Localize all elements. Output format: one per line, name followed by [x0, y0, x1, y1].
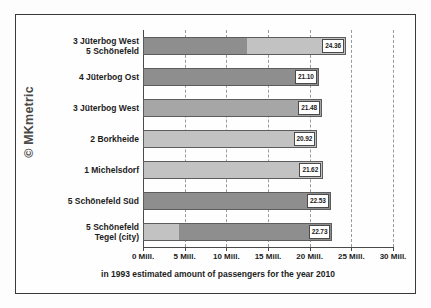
gridline — [351, 30, 352, 247]
copyright-text: © MKmetric — [22, 86, 36, 158]
bar-value-label: 21.48 — [298, 101, 320, 115]
bar-value-label: 24.36 — [322, 39, 344, 53]
x-axis-tick-label: 20 Mill. — [288, 252, 332, 261]
x-axis-tick — [393, 247, 394, 251]
category-label: 2 Borkheide — [43, 134, 143, 144]
bar-segment — [144, 162, 322, 178]
bar-segment — [144, 131, 316, 147]
bar-segment — [144, 224, 179, 240]
category-label: 1 Michelsdorf — [43, 165, 143, 175]
category-label-line: 5 Schönefeld — [43, 222, 139, 232]
x-axis-tick — [226, 247, 227, 251]
bar[interactable]: 21.62 — [143, 161, 323, 179]
copyright-watermark: © MKmetric — [20, 52, 38, 192]
plot-area: 24.3621.1021.4820.9221.6222.5322.73 — [143, 30, 393, 247]
category-label-line: 5 Schönefeld — [43, 46, 139, 56]
bar-segment — [144, 100, 321, 116]
x-axis-tick-label: 5 Mill. — [163, 252, 207, 261]
category-label-line: Tegel (city) — [43, 232, 139, 242]
bar[interactable]: 24.36 — [143, 37, 346, 55]
category-label-line: 3 Jüterbog West — [43, 103, 139, 113]
category-label-line: 3 Jüterbog West — [43, 36, 139, 46]
bar-row: 21.10 — [143, 68, 319, 86]
bar-segment — [144, 69, 318, 85]
bar-segment — [144, 193, 330, 209]
bar-value-label: 21.10 — [295, 70, 317, 84]
bar-row: 21.48 — [143, 99, 322, 117]
x-axis-tick-label: 15 Mill. — [246, 252, 290, 261]
bar-segment — [144, 38, 247, 54]
bar-value-label: 22.73 — [309, 225, 331, 239]
x-axis-tick — [268, 247, 269, 251]
x-axis-tick — [310, 247, 311, 251]
category-label: 5 SchönefeldTegel (city) — [43, 222, 143, 242]
bar-value-label: 21.62 — [299, 163, 321, 177]
x-axis-tick — [143, 247, 144, 251]
x-axis-tick — [351, 247, 352, 251]
bar[interactable]: 22.53 — [143, 192, 331, 210]
category-label: 5 Schönefeld Süd — [43, 196, 143, 206]
bar[interactable]: 22.73 — [143, 223, 332, 241]
bar-row: 24.36 — [143, 37, 346, 55]
category-label: 3 Jüterbog West — [43, 103, 143, 113]
x-axis-title: in 1993 estimated amount of passengers f… — [38, 269, 398, 279]
category-label-line: 2 Borkheide — [43, 134, 139, 144]
bar[interactable]: 21.10 — [143, 68, 319, 86]
gridline — [393, 30, 394, 247]
category-label-line: 5 Schönefeld Süd — [43, 196, 139, 206]
category-axis-labels: 3 Jüterbog West5 Schönefeld4 Jüterbog Os… — [38, 30, 143, 247]
x-axis-tick-label: 30 Mill. — [371, 252, 415, 261]
category-label-line: 1 Michelsdorf — [43, 165, 139, 175]
bar[interactable]: 21.48 — [143, 99, 322, 117]
bar[interactable]: 20.92 — [143, 130, 317, 148]
category-label-line: 4 Jüterbog Ost — [43, 72, 139, 82]
category-label: 3 Jüterbog West5 Schönefeld — [43, 36, 143, 56]
x-axis-tick-label: 25 Mill. — [329, 252, 373, 261]
x-axis-tick-label: 0 Mill. — [121, 252, 165, 261]
bar-row: 21.62 — [143, 161, 323, 179]
bar-row: 22.73 — [143, 223, 332, 241]
bar-value-label: 20.92 — [294, 132, 316, 146]
bar-row: 22.53 — [143, 192, 331, 210]
category-label: 4 Jüterbog Ost — [43, 72, 143, 82]
chart-page: © MKmetric 24.3621.1021.4820.9221.6222.5… — [0, 0, 431, 308]
bar-value-label: 22.53 — [307, 194, 329, 208]
x-axis-tick-label: 10 Mill. — [204, 252, 248, 261]
x-axis-tick — [185, 247, 186, 251]
bar-row: 20.92 — [143, 130, 317, 148]
